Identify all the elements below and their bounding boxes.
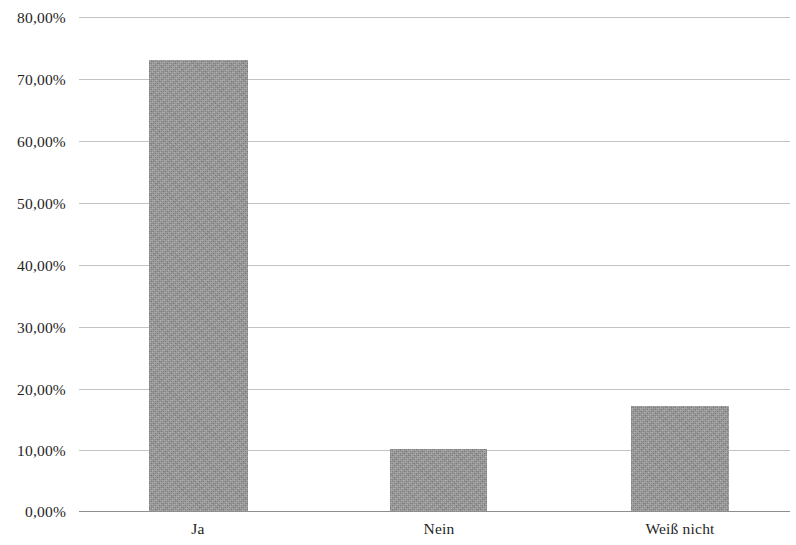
bar-nein [390, 449, 487, 511]
y-axis-tick-label: 40,00% [0, 258, 66, 274]
y-axis-tick-label: 70,00% [0, 72, 66, 88]
y-axis-tick-label: 60,00% [0, 134, 66, 150]
bar-weiss-nicht [631, 406, 729, 511]
x-axis-label-weiss-nicht: Weiß nicht [645, 521, 714, 537]
gridline-80 [79, 17, 790, 18]
y-axis-tick-label: 10,00% [0, 443, 66, 459]
bar-chart: 80,00% 70,00% 60,00% 50,00% 40,00% 30,00… [0, 0, 796, 545]
x-axis-label-ja: Ja [191, 521, 204, 537]
y-axis-tick-label: 30,00% [0, 320, 66, 336]
y-axis-tick-label: 20,00% [0, 382, 66, 398]
plot-area [79, 17, 790, 511]
y-axis-tick-label: 50,00% [0, 196, 66, 212]
bar-ja [149, 60, 248, 511]
y-axis-tick-label: 80,00% [0, 10, 66, 26]
x-axis-label-nein: Nein [424, 521, 455, 537]
x-axis-line [79, 511, 790, 512]
y-axis-tick-label: 0,00% [0, 504, 66, 520]
